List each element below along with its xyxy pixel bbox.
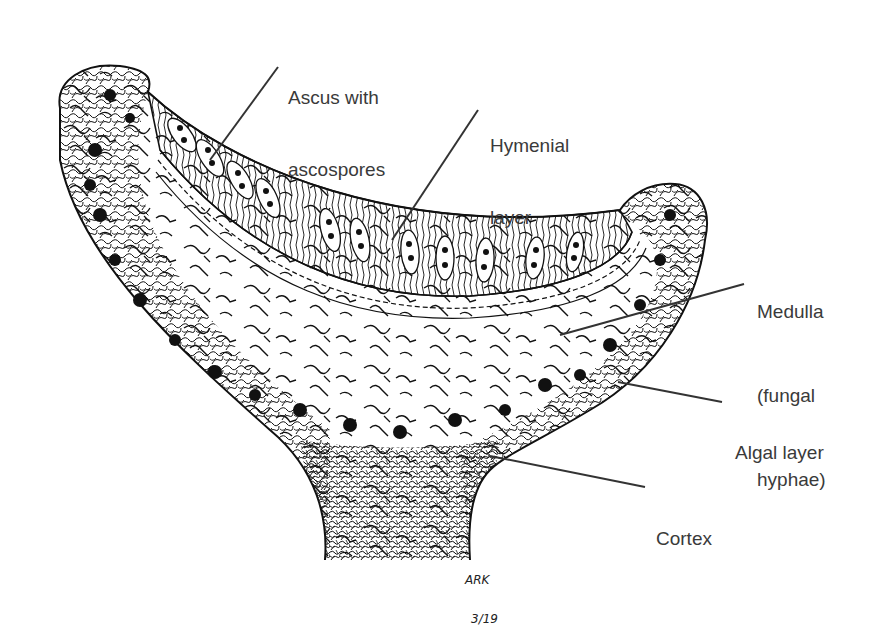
label-cortex: Cortex [656,479,712,575]
label-algal-layer: Algal layer [735,393,824,489]
label-hymenial-line1: Hymenial [490,134,569,158]
label-hymenial-line2: layer [490,206,569,230]
label-algal-line1: Algal layer [735,441,824,465]
label-ascus-line2: ascospores [288,158,385,182]
label-hymenial-layer: Hymenial layer [490,86,569,254]
algal-leader-line [618,382,722,402]
cortex-leader-line [490,456,645,487]
label-cortex-line1: Cortex [656,527,712,551]
label-medulla-line1: Medulla [757,298,826,326]
artist-signature: ARK 3/19 [465,548,498,629]
label-ascus-with-ascospores: Ascus with ascospores [288,38,385,206]
label-ascus-line1: Ascus with [288,86,385,110]
ascus-leader-line [210,67,278,160]
signature-initials: ARK [465,574,498,587]
signature-date: 3/19 [465,613,498,626]
